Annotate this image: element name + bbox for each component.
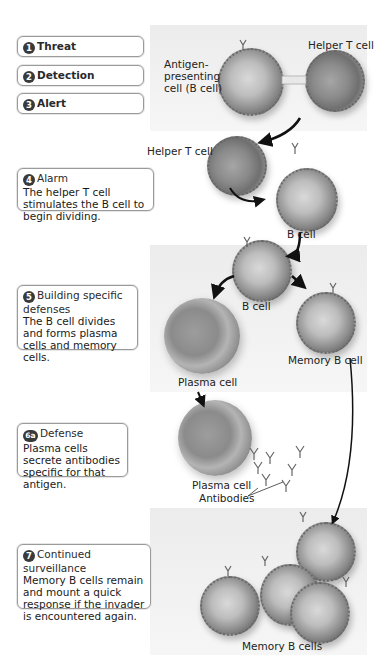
label-antigen-presenting-cell: Antigen- presenting cell (B cell) bbox=[164, 58, 222, 94]
label-b-cell-1: B cell bbox=[287, 228, 316, 240]
label-b-cell-2: B cell bbox=[242, 300, 271, 312]
label-plasma-cell-1: Plasma cell bbox=[178, 376, 237, 388]
label-plasma-cell-2: Plasma cell bbox=[192, 479, 251, 491]
label-antibodies: Antibodies bbox=[199, 492, 254, 504]
label-memory-b-cells: Memory B cells bbox=[242, 640, 322, 652]
antibody-icons bbox=[225, 40, 349, 587]
label-memory-b-cell: Memory B cell bbox=[288, 354, 363, 366]
label-helper-t-cell-top: Helper T cell bbox=[308, 39, 374, 51]
receptor-bridge bbox=[282, 76, 306, 84]
label-helper-t-cell-mid: Helper T cell bbox=[147, 145, 213, 157]
arrows-and-antibodies bbox=[0, 0, 386, 661]
